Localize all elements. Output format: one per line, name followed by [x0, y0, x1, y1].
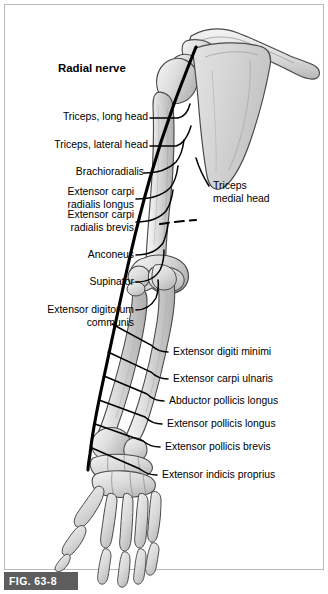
- anatomy-illustration: [0, 0, 328, 594]
- phalanx-4-proximal: [134, 549, 146, 584]
- scapula-bone: [193, 43, 271, 190]
- label-anconeus: Anconeus: [34, 249, 134, 262]
- label-brachioradialis: Brachioradialis: [34, 166, 144, 179]
- label-extensor-digiti-minimi: Extensor digiti minimi: [173, 346, 271, 359]
- label-extensor-indicis-proprius: Extensor indicis proprius: [162, 469, 275, 482]
- label-extensor-pollicis-brevis: Extensor pollicis brevis: [165, 441, 271, 454]
- figure-caption-id: FIG. 63-8: [4, 572, 78, 590]
- label-extensor-digitorum-communis-line1: Extensor digitorum: [16, 304, 134, 317]
- phalanx-2-proximal: [98, 549, 111, 584]
- phalanx-3-proximal: [118, 552, 130, 587]
- label-triceps-medial-head-line2: medial head: [213, 193, 270, 206]
- metacarpal-2: [101, 493, 117, 548]
- bone-group-shoulder-girdle: [157, 29, 320, 189]
- bone-group-hand: [55, 454, 161, 587]
- label-extensor-carpi-radialis-brevis-line2: radialis brevis: [16, 222, 134, 235]
- label-triceps-long-head: Triceps, long head: [22, 111, 148, 124]
- label-triceps-lateral-head: Triceps, lateral head: [16, 139, 148, 152]
- metacarpal-4: [135, 493, 148, 548]
- figure-container: Radial nerve Triceps, long head Triceps,…: [0, 0, 328, 594]
- label-extensor-digitorum-communis-line2: communis: [16, 317, 134, 330]
- label-extensor-carpi-radialis-brevis-line1: Extensor carpi: [16, 209, 134, 222]
- label-triceps-medial-head-line1: Triceps: [213, 180, 247, 193]
- phalanx-1-distal: [55, 554, 70, 572]
- metacarpal-1: [74, 486, 104, 527]
- bone-group-forearm: [92, 265, 177, 462]
- label-supinator: Supinator: [34, 276, 134, 289]
- label-extensor-carpi-ulnaris: Extensor carpi ulnaris: [173, 373, 273, 386]
- figure-title: Radial nerve: [58, 62, 126, 74]
- phalanx-5-proximal: [146, 543, 159, 575]
- label-extensor-carpi-radialis-longus-line1: Extensor carpi: [16, 186, 134, 199]
- metacarpal-3: [120, 493, 133, 551]
- label-abductor-pollicis-longus: Abductor pollicis longus: [169, 395, 278, 408]
- metacarpal-5: [148, 491, 161, 542]
- phalanx-1-proximal: [62, 526, 86, 557]
- label-extensor-pollicis-longus: Extensor pollicis longus: [167, 418, 276, 431]
